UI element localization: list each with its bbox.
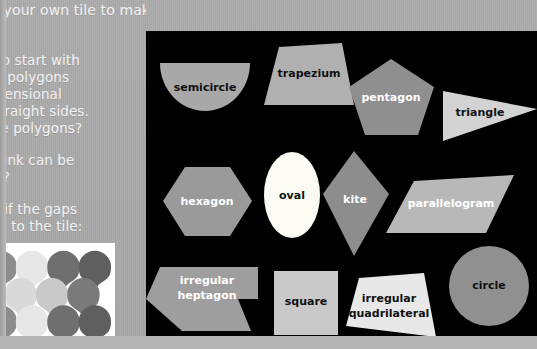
page-footer-margin (0, 336, 537, 349)
shape-label-triangle: triangle (456, 106, 505, 119)
body-line-5: right are polygons? (0, 120, 82, 136)
body-line-8: ellations if the gaps (0, 201, 77, 217)
shape-label-semicircle: semicircle (174, 81, 237, 94)
shape-label-irregular-quadrilateral-line2: quadrilateral (349, 307, 430, 320)
shape-label-square: square (285, 295, 328, 308)
shape-label-irregular-quadrilateral-line1: irregular (362, 292, 417, 305)
shape-label-hexagon: hexagon (180, 195, 233, 208)
intro-line: design your own tile to make your own pa… (0, 2, 146, 18)
shape-label-pentagon: pentagon (361, 91, 420, 104)
shape-label-kite: kite (343, 193, 367, 206)
page-gutter (0, 0, 6, 349)
shapes-canvas: semicircle trapezium pentagon triangle h… (146, 31, 537, 336)
left-text-column: design your own tile to make your own pa… (0, 0, 146, 349)
shape-label-circle: circle (472, 279, 505, 292)
tessellation-sample-image (0, 243, 115, 343)
shape-label-irregular-heptagon-line1: irregular (180, 274, 235, 287)
shape-label-trapezium: trapezium (278, 67, 341, 80)
tessellation-pattern (0, 246, 112, 340)
shapes-panel: semicircle trapezium pentagon triangle h… (146, 31, 537, 336)
body-line-2: not all polygons (0, 69, 69, 85)
shape-label-parallelogram: parallelogram (408, 197, 495, 210)
body-line-1: ation is to start with (0, 52, 80, 68)
shape-label-irregular-heptagon-line2: heptagon (177, 289, 236, 302)
body-line-6: you think can be (0, 152, 74, 168)
shape-label-oval: oval (279, 189, 305, 202)
body-line-3: wo-dimensional (0, 86, 62, 102)
body-line-4: more straight sides. (0, 103, 89, 119)
body-line-9: added to the tile: (0, 218, 82, 234)
